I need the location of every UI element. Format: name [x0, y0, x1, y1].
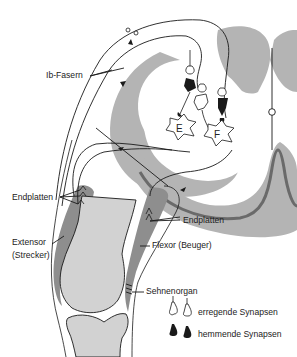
- label-endplatten-left: Endplatten: [12, 193, 53, 202]
- excitatory-synapse-right: [218, 88, 226, 96]
- excitatory-synapse-upper-left: [186, 66, 194, 74]
- neuron-e-label: E: [176, 123, 183, 134]
- central-canal: [269, 109, 276, 116]
- label-flexor: Flexor (Beuger): [152, 241, 212, 250]
- legend-filled-synapse-2: [183, 326, 191, 338]
- neuron-f-label: F: [214, 129, 220, 140]
- label-extensor: Extensor: [12, 238, 46, 247]
- label-endplatten-right: Endplatten: [183, 216, 224, 225]
- legend-open-synapse-1: [169, 302, 177, 315]
- legend-label-excitatory: erregende Synapsen: [198, 308, 278, 317]
- gray-matter-dorsal-right: [270, 30, 297, 92]
- legend-open-synapse-2: [183, 304, 191, 316]
- reflex-diagram: E F: [0, 0, 297, 357]
- excitatory-synapse-middle: [198, 84, 206, 92]
- legend-label-inhibitory: hemmende Synapsen: [198, 330, 282, 339]
- label-ib-fasern: Ib-Fasern: [46, 71, 83, 80]
- spinal-cord: [110, 26, 297, 237]
- label-sehnenorgan: Sehnenorgan: [146, 287, 198, 296]
- legend-filled-synapse-1: [169, 324, 177, 336]
- legend-symbols: [169, 296, 191, 338]
- tibia: [67, 314, 129, 357]
- receptor-endings: [126, 28, 138, 35]
- label-extensor-strecker: (Strecker): [12, 251, 50, 260]
